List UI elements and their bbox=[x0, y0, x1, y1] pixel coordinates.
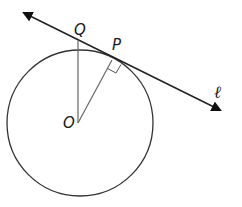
segment-op bbox=[78, 60, 112, 123]
label-p: P bbox=[112, 38, 121, 53]
label-line-l: ℓ bbox=[214, 84, 221, 101]
diagram-svg bbox=[0, 0, 242, 207]
circle bbox=[7, 50, 153, 196]
label-o: O bbox=[63, 116, 75, 131]
geometry-diagram: Q P O ℓ bbox=[0, 0, 242, 207]
label-q: Q bbox=[74, 23, 86, 38]
tangent-line-l bbox=[24, 13, 220, 110]
